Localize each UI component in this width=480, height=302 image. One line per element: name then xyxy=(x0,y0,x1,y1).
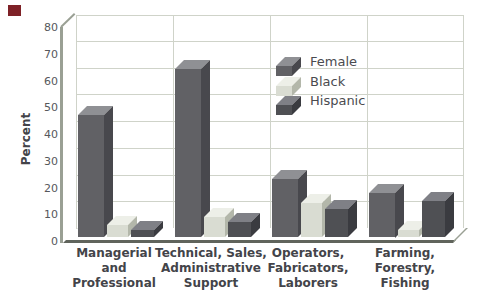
category-label-line: Forestry, xyxy=(340,261,470,276)
category-labels: ManagerialandProfessionalTechnical, Sale… xyxy=(0,0,480,302)
bar-chart-figure: Percent 01020304050607080 FemaleBlackHis… xyxy=(0,0,480,302)
category-label-line: Fishing xyxy=(340,276,470,291)
category-label-3: Farming,Forestry,Fishing xyxy=(340,246,470,291)
category-label-line: Farming, xyxy=(340,246,470,261)
